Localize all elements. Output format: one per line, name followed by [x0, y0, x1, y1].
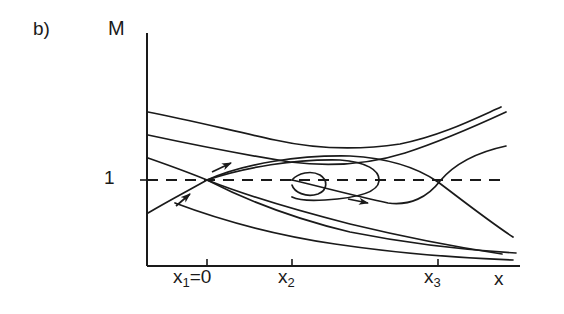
- curve-upper-branch-1: [148, 107, 501, 148]
- panel-label: b): [33, 18, 50, 40]
- x-axis-label: x: [494, 268, 504, 290]
- curve-lower-branch-1: [207, 180, 516, 253]
- trajectory-curves: [148, 107, 516, 260]
- x-tick-label-x2-base: x: [278, 266, 288, 287]
- axes: [140, 33, 520, 266]
- y-axis-label: M: [108, 17, 125, 40]
- curve-lower-branch-2: [175, 203, 513, 260]
- x-tick-label-x2-subscript: 2: [288, 275, 295, 290]
- x-tick-label-x1-base: x: [173, 266, 183, 287]
- arrow-loop-return-icon: [348, 199, 368, 203]
- x-tick-label-x3: x3: [424, 266, 441, 288]
- y-tick-label-1: 1: [104, 167, 115, 189]
- x-tick-label-x1-suffix: =0: [190, 266, 212, 287]
- curve-outgoing-separatrix: [148, 156, 513, 237]
- x-tick-label-x2: x2: [278, 266, 295, 288]
- arrow-outgoing-x1-icon: [212, 163, 231, 172]
- x-tick-label-x1-subscript: 1: [183, 275, 190, 290]
- x-tick-label-x3-base: x: [424, 266, 434, 287]
- x-tick-label-x3-subscript: 3: [434, 275, 441, 290]
- x-tick-label-x1: x1=0: [173, 266, 211, 288]
